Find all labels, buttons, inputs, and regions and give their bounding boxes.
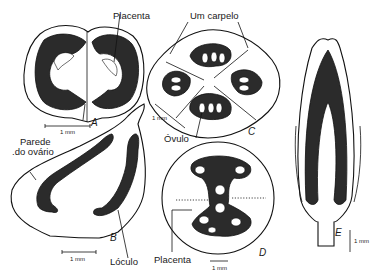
panel-letter-e: E bbox=[335, 228, 342, 238]
label-placenta-d: Placenta bbox=[154, 255, 191, 265]
panel-b bbox=[11, 104, 145, 258]
panel-d bbox=[162, 142, 274, 261]
panel-letter-b: B bbox=[110, 233, 117, 243]
label-loculo: Lóculo bbox=[110, 257, 138, 267]
panel-letter-c: C bbox=[248, 127, 255, 137]
panel-a bbox=[24, 14, 144, 128]
scale-label-c: 1 mm bbox=[152, 115, 167, 121]
label-placenta-a: Placenta bbox=[113, 11, 150, 21]
scale-label-b: 1 mm bbox=[70, 256, 85, 262]
panel-letter-a: A bbox=[91, 118, 98, 128]
label-um-carpelo: Um carpelo bbox=[190, 11, 239, 21]
scale-label-e: 1 mm bbox=[354, 238, 369, 244]
scale-label-d: 1 mm bbox=[212, 265, 227, 271]
label-parede-line2: .do ovário bbox=[12, 147, 54, 157]
scale-label-a: 1 mm bbox=[60, 129, 75, 135]
panel-letter-d: D bbox=[259, 248, 266, 258]
label-ovulo: Óvulo bbox=[164, 134, 189, 144]
panel-e bbox=[295, 39, 361, 252]
